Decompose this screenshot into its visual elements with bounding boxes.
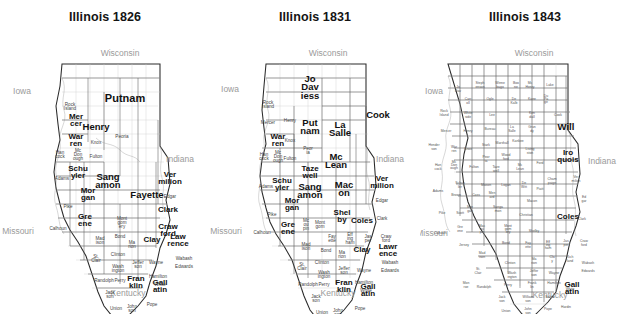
county-label-wabash: Wabash	[582, 261, 594, 265]
county-label-mad-ison: Madison	[96, 236, 105, 245]
county-label-rock-island: RockIsland	[64, 102, 77, 111]
county-label-macon: Macon	[527, 199, 537, 203]
neighbor-label-missouri: Missouri	[210, 226, 242, 236]
county-label-la-salle: LaSalle	[329, 119, 351, 139]
county-label-fulton: Fulton	[469, 165, 479, 169]
county-label-pike: Pike	[64, 204, 73, 209]
county-label-pope: Pope	[355, 306, 366, 311]
county-label-wayne: Wayne	[549, 271, 560, 275]
county-label-putnam: Putnam	[105, 92, 146, 104]
county-label-jo-dav-iess: JoDaviess	[301, 73, 320, 101]
county-label-clinton: Clinton	[505, 261, 516, 265]
county-label-taze-well: Tazewell	[492, 165, 499, 172]
county-label-white-side: Whiteside	[464, 111, 473, 118]
county-label-william-son: Williamson	[523, 295, 534, 302]
county-label-hender-son: Henderson	[428, 143, 440, 150]
county-label-white: White	[360, 288, 372, 293]
county-label-cham-paign: Champaign	[547, 177, 556, 184]
county-label-hamilton: Hamilton	[149, 274, 168, 279]
county-label-coles: Coles	[351, 216, 373, 225]
county-label-mont-gom: Montgom	[315, 220, 326, 229]
county-label-kane: Kane	[528, 97, 536, 101]
county-label-ed-gar: Edgar	[582, 195, 588, 202]
county-label-sang-amon: Sangamon	[95, 171, 121, 191]
county-label-kankee: Kankee	[512, 139, 524, 143]
county-label-gre-ene: Greene	[457, 225, 463, 232]
county-label-wash-ington: Washington	[507, 271, 516, 278]
county-label-logan: Logan	[501, 183, 511, 187]
county-label-boo-ne: Boone	[513, 81, 519, 88]
county-label-han-cock: Hancock	[55, 150, 65, 159]
county-label-union: Union	[502, 309, 511, 313]
county-label-war-ren: Warren	[271, 132, 286, 148]
county-label-mor-gan: Morgan	[467, 205, 474, 212]
county-label-john-son: Johnson	[524, 307, 531, 314]
county-label-pike: Pike	[268, 212, 277, 217]
county-label-winne-bago: Winnebago	[495, 81, 505, 88]
county-label-hamilton: Hamilton	[547, 281, 560, 285]
county-label-mc-don-ough: McDonough	[450, 160, 458, 171]
county-label-coles: Coles	[557, 212, 579, 221]
county-label-living-ston: Livingston	[526, 147, 535, 154]
county-labels-1831: JoDaviessPutnamLaSalleCookMcLeanWarrenTa…	[253, 73, 399, 315]
county-label-white: White	[154, 282, 166, 287]
county-label-mercer: Mercer	[261, 120, 276, 125]
county-label-mor-gan: Morgan	[81, 186, 96, 202]
county-label-peor-ia: Peoria	[303, 146, 313, 155]
county-label-cook: Cook	[554, 113, 562, 117]
county-label-jack-son: Jackson	[311, 294, 321, 303]
county-label-wayne: Wayne	[357, 268, 372, 273]
county-label-knox: Knox	[285, 138, 296, 143]
county-label-wash-ington: Washington	[112, 264, 125, 273]
county-label-mor-gan: Morgan	[285, 196, 300, 212]
county-label-fran-klin: Franklin	[335, 278, 352, 294]
county-label-calhoun: Calhoun	[49, 226, 67, 231]
county-label-bureau: Bureau	[485, 127, 496, 131]
county-label-st-clair: St.Clair	[297, 262, 307, 271]
county-label-war-ren: Warren	[69, 132, 84, 148]
county-label-clark: Clark	[377, 216, 388, 221]
county-label-put-nam: Putnam	[300, 117, 320, 137]
neighbor-label-wisconsin: Wisconsin	[101, 48, 140, 58]
county-label-randolph: Randolph	[477, 285, 492, 289]
county-label-mad-ison: Madison	[479, 251, 486, 258]
county-label-frank-lin: Franklin	[528, 281, 537, 288]
county-label-ma-rion: Marion	[128, 240, 136, 249]
county-label-st-clair: St.Clair	[475, 267, 483, 274]
neighbor-label-indiana: Indiana	[588, 156, 616, 166]
county-label-clark: Clark	[578, 217, 586, 221]
county-label-mc-don-ough: McDonough	[273, 150, 284, 164]
county-label-john-son: Johnson	[127, 304, 137, 313]
map-panel-1826: Illinois 1826 Wiscon	[0, 0, 210, 322]
county-label-mercer: Mercer	[441, 129, 452, 133]
county-label-rock-island: RockIsland	[262, 100, 275, 109]
county-label-ogle: Ogle	[486, 97, 493, 101]
county-label-christian: Christian	[519, 213, 532, 217]
county-label-mc-henry: McHenry	[525, 81, 534, 88]
county-label-stark: Stark	[482, 143, 490, 147]
county-label-john-son: Johnson	[333, 308, 343, 314]
county-label-han-cock: Hancock	[259, 152, 269, 161]
county-label-adams: Adams	[433, 189, 444, 193]
county-label-steph-enson: Stephenson	[475, 81, 484, 88]
county-label-calhoun: Calhoun	[253, 230, 271, 235]
county-label-bond: Bond	[115, 234, 126, 239]
county-label-wood-ford: Woodford	[502, 153, 511, 160]
county-label-sanga-mon: Sangamon	[493, 205, 503, 212]
county-label-knox: Knox	[464, 147, 472, 151]
county-label-cook: Cook	[366, 109, 390, 120]
neighbor-label-wisconsin: Wisconsin	[309, 48, 348, 58]
county-label-han-cock: Hancock	[435, 163, 442, 170]
county-label-schu-yler: Schuyler	[272, 176, 292, 192]
county-label-lee: Lee	[489, 113, 495, 117]
county-label-fay-ette: Fayette	[328, 234, 336, 243]
county-label-hamilton: Hamilton	[355, 280, 374, 285]
county-label-mc-lean: McLean	[325, 151, 347, 171]
county-label-edwards: Edwards	[175, 264, 194, 269]
county-label-wabash: Wabash	[176, 256, 193, 261]
map-graphic-1826: WisconsinIowaIndianaMissouriKentucky Put…	[0, 34, 210, 314]
county-label-schu-yler: Schuyler	[68, 164, 88, 180]
county-label-fay-ette: Fayette	[525, 241, 531, 248]
map-panel-1831: Illinois 1831 WisconsinIowaIndi	[210, 0, 420, 322]
county-label-adams: Adams	[55, 176, 70, 181]
